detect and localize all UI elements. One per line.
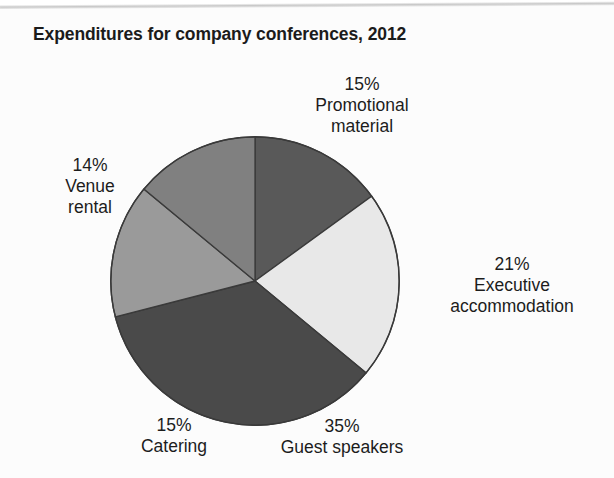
- pie-chart: [110, 136, 400, 426]
- chart-title: Expenditures for company conferences, 20…: [33, 24, 406, 45]
- pie-label-venue-rental: 14% Venue rental: [38, 155, 142, 218]
- pie-label-guest-speakers: 35% Guest speakers: [262, 416, 422, 458]
- pie-chart-svg: [110, 136, 400, 426]
- pie-label-catering: 15% Catering: [106, 415, 242, 457]
- pie-label-promotional-material: 15% Promotional material: [292, 74, 432, 137]
- pie-slices: [111, 137, 399, 425]
- pie-label-executive-accommodation: 21% Executive accommodation: [412, 254, 612, 317]
